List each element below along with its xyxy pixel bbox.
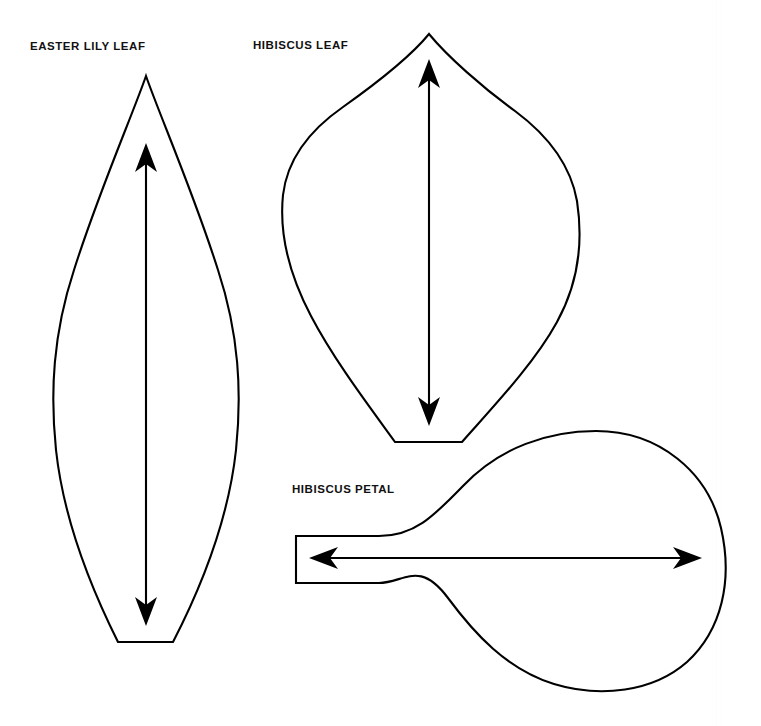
easter-lily-leaf-grain-arrow	[135, 143, 157, 626]
hibiscus-leaf-outline	[282, 34, 579, 442]
hibiscus-petal-outline	[296, 431, 726, 691]
label-easter-lily-leaf: EASTER LILY LEAF	[30, 41, 146, 53]
easter-lily-leaf-template	[53, 76, 238, 642]
hibiscus-petal-grain-arrow	[309, 547, 702, 569]
hibiscus-leaf-grain-arrow	[418, 59, 440, 426]
template-artwork	[0, 0, 761, 726]
hibiscus-leaf-template	[282, 34, 579, 442]
label-hibiscus-leaf: HIBISCUS LEAF	[253, 40, 348, 52]
template-sheet: EASTER LILY LEAF HIBISCUS LEAF HIBISCUS …	[0, 0, 761, 726]
hibiscus-petal-template	[296, 431, 726, 691]
label-hibiscus-petal: HIBISCUS PETAL	[292, 484, 395, 496]
